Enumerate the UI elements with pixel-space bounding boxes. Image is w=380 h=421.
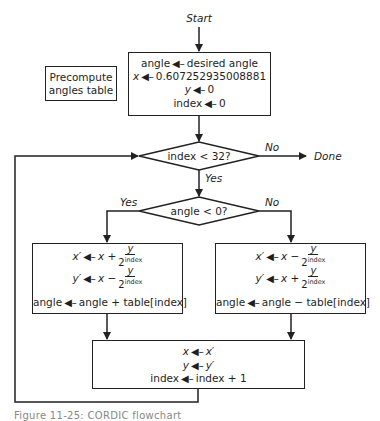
start-label: Start [186, 12, 212, 24]
init-index-value: 0 [219, 97, 226, 109]
update-box: x◀–x′ y◀–y′ index◀–index + 1 [92, 340, 305, 389]
right-y-update: y′◀–x + y2index [216, 267, 365, 289]
frac-num: y [308, 244, 318, 255]
assign-arrow-icon: ◀– [181, 373, 194, 384]
left-y-op: − [107, 272, 116, 284]
loop-decision-text: index < 32? [167, 150, 230, 162]
precompute-line2: angles table [46, 84, 116, 96]
assign-arrow-icon: ◀– [191, 360, 204, 371]
positive-angle-box: x′◀–x − y2index y′◀–x + y2index angle◀–a… [215, 243, 366, 314]
left-x-update: x′◀–x + y2index [33, 245, 182, 267]
frac-num: y [308, 266, 318, 277]
update-x-value: x′ [206, 345, 215, 357]
assign-arrow-icon: ◀– [83, 251, 96, 262]
update-y-var: y [183, 359, 189, 371]
frac-exp: index [125, 256, 143, 264]
frac-num: y [125, 244, 135, 255]
update-index-var: index [150, 372, 179, 384]
init-angle-value: desired angle [187, 57, 258, 69]
right-x-var: x [281, 250, 287, 262]
right-x-update: x′◀–x − y2index [216, 245, 365, 267]
assign-arrow-icon: ◀– [193, 84, 206, 95]
assign-arrow-icon: ◀– [191, 346, 204, 357]
init-line-y: y◀–0 [129, 83, 270, 95]
assign-arrow-icon: ◀– [64, 297, 77, 308]
right-y-op: + [290, 272, 299, 284]
init-index-var: index [173, 97, 202, 109]
loop-yes-label: Yes [205, 172, 222, 184]
init-y-var: y [185, 83, 191, 95]
init-line-x: x◀–0.607252935008881 [129, 70, 270, 82]
frac-exp: index [308, 256, 326, 264]
angle-yes-arrow [107, 211, 139, 242]
update-y-value: y′ [206, 359, 215, 371]
right-angle-expr: angle − table[index] [262, 296, 370, 308]
init-angle-var: angle [141, 57, 170, 69]
angle-no-arrow [259, 211, 291, 242]
update-x: x◀–x′ [93, 345, 304, 357]
loop-no-label: No [265, 141, 279, 153]
frac-exp: index [125, 278, 143, 286]
left-angle-update: angle◀–angle + table[index] [33, 296, 182, 308]
update-y: y◀–y′ [93, 359, 304, 371]
left-y-update: y′◀–x − y2index [33, 267, 182, 289]
left-y-fraction: y2index [118, 266, 142, 290]
init-x-value: 0.607252935008881 [156, 70, 266, 82]
update-index: index◀–index + 1 [93, 372, 304, 384]
angle-decision-text: angle < 0? [171, 205, 228, 217]
init-box: angle◀–desired angle x◀–0.60725293500888… [128, 52, 271, 116]
right-x-op: − [290, 250, 299, 262]
assign-arrow-icon: ◀– [83, 273, 96, 284]
update-x-var: x [183, 345, 189, 357]
init-x-var: x [133, 70, 139, 82]
right-angle-var: angle [216, 296, 245, 308]
left-angle-var: angle [33, 296, 62, 308]
init-line-angle: angle◀–desired angle [129, 57, 270, 69]
negative-angle-box: x′◀–x + y2index y′◀–x − y2index angle◀–a… [32, 243, 183, 314]
left-x-op: + [107, 250, 116, 262]
precompute-box: Precompute angles table [45, 66, 117, 101]
left-angle-expr: angle + table[index] [79, 296, 187, 308]
left-y-var: x [98, 272, 104, 284]
right-y-var: x [281, 272, 287, 284]
angle-no-label: No [265, 196, 279, 208]
left-y-prime: y′ [73, 272, 82, 284]
precompute-line1: Precompute [46, 71, 116, 83]
angle-yes-label: Yes [120, 196, 137, 208]
assign-arrow-icon: ◀– [266, 273, 279, 284]
left-x-var: x [98, 250, 104, 262]
init-line-index: index◀–0 [129, 97, 270, 109]
init-y-value: 0 [208, 83, 215, 95]
right-y-prime: y′ [256, 272, 265, 284]
frac-exp: index [308, 278, 326, 286]
right-x-prime: x′ [256, 250, 265, 262]
assign-arrow-icon: ◀– [204, 98, 217, 109]
assign-arrow-icon: ◀– [247, 297, 260, 308]
left-x-prime: x′ [73, 250, 82, 262]
done-label: Done [314, 150, 342, 162]
assign-arrow-icon: ◀– [266, 251, 279, 262]
figure-caption: Figure 11-25: CORDIC flowchart [14, 410, 182, 421]
right-angle-update: angle◀–angle − table[index] [216, 296, 365, 308]
frac-num: y [125, 266, 135, 277]
right-y-fraction: y2index [301, 266, 325, 290]
update-index-value: index + 1 [196, 372, 247, 384]
assign-arrow-icon: ◀– [172, 58, 185, 69]
assign-arrow-icon: ◀– [141, 71, 154, 82]
